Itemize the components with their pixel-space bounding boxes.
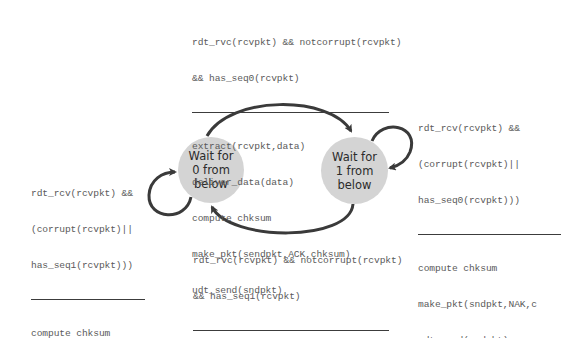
event-text: has_seq0(rcvpkt))) <box>418 195 561 207</box>
event-text: rdt_rvc(rcvpkt) && notcorrupt(rcvpkt) <box>193 255 389 267</box>
event-action-divider <box>193 330 389 331</box>
action-text: make_pkt(sndpkt,NAK,c <box>418 299 561 311</box>
fsm-diagram: Wait for 0 from below Wait for 1 from be… <box>0 0 561 338</box>
event-text: rdt_rcv(rcvpkt) && <box>31 188 145 200</box>
event-text: (corrupt(rcvpkt)|| <box>31 224 145 236</box>
transition-label-wait1-self: rdt_rcv(rcvpkt) && (corrupt(rcvpkt)|| ha… <box>418 99 561 338</box>
action-text: deliver_data(data) <box>192 177 389 189</box>
event-text: (corrupt(rcvpkt)|| <box>418 159 561 171</box>
event-action-divider <box>31 299 145 300</box>
event-action-divider <box>192 112 389 113</box>
event-text: && has_seq0(rcvpkt) <box>192 73 389 85</box>
event-action-divider <box>418 234 561 235</box>
transition-label-wait0-self: rdt_rcv(rcvpkt) && (corrupt(rcvpkt)|| ha… <box>31 164 145 338</box>
transition-label-wait1-to-wait0: rdt_rvc(rcvpkt) && notcorrupt(rcvpkt) &&… <box>193 231 389 338</box>
event-text: has_seq1(rcvpkt))) <box>31 260 145 272</box>
action-text: extract(rcvpkt,data) <box>192 141 389 153</box>
event-text: rdt_rcv(rcvpkt) && <box>418 123 561 135</box>
action-text: compute chksum <box>192 213 389 225</box>
action-text: compute chksum <box>418 263 561 275</box>
action-text: compute chksum <box>31 328 145 338</box>
event-text: rdt_rvc(rcvpkt) && notcorrupt(rcvpkt) <box>192 37 389 49</box>
event-text: && has_seq1(rcvpkt) <box>193 291 389 303</box>
